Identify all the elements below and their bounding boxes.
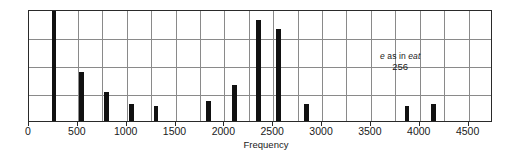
vertical-gridline [200, 11, 201, 121]
x-axis-tick-label: 3000 [309, 125, 332, 137]
frequency-histogram-figure: e as in eat 256 050010001500200025003000… [0, 0, 532, 153]
vertical-gridline [224, 11, 225, 121]
vowel-annotation-connector: as in [385, 51, 408, 61]
bar-2840 [304, 104, 309, 121]
bar-4140 [431, 104, 436, 121]
vertical-gridline [273, 11, 274, 121]
vowel-annotation-value: 256 [380, 62, 420, 73]
x-axis-tick-label: 3500 [358, 125, 381, 137]
bar-1840 [206, 101, 211, 121]
x-axis-tick-label: 2000 [212, 125, 235, 137]
x-axis-title: Frequency [0, 139, 532, 150]
bar-540 [79, 72, 84, 121]
bar-3870 [405, 106, 410, 121]
vertical-gridline [371, 11, 372, 121]
plot-area: e as in eat 256 [28, 10, 492, 122]
x-axis-tick-label: 2500 [261, 125, 284, 137]
x-axis-tick-label: 4000 [407, 125, 430, 137]
bar-2100 [232, 85, 237, 121]
x-axis-tick-label: 4500 [456, 125, 479, 137]
bar-2350 [256, 20, 261, 121]
vertical-gridline [176, 11, 177, 121]
vertical-gridline [444, 11, 445, 121]
vowel-annotation-label: e as in eat [380, 52, 420, 62]
x-axis-tick-label: 500 [68, 125, 86, 137]
vertical-gridline [322, 11, 323, 121]
x-axis-tick-label: 0 [25, 125, 31, 137]
bar-2550 [276, 29, 281, 121]
vowel-annotation: e as in eat 256 [380, 52, 420, 74]
vertical-gridline [298, 11, 299, 121]
vertical-gridline [127, 11, 128, 121]
vertical-gridline [249, 11, 250, 121]
bar-1300 [154, 106, 159, 121]
vertical-gridline [151, 11, 152, 121]
vertical-gridline [469, 11, 470, 121]
x-axis-tick-label: 1500 [163, 125, 186, 137]
x-axis-tick-label: 1000 [114, 125, 137, 137]
bar-1050 [129, 104, 134, 121]
bar-790 [104, 92, 109, 121]
vowel-annotation-word: eat [408, 51, 420, 61]
bar-256 [52, 10, 57, 121]
vertical-gridline [346, 11, 347, 121]
